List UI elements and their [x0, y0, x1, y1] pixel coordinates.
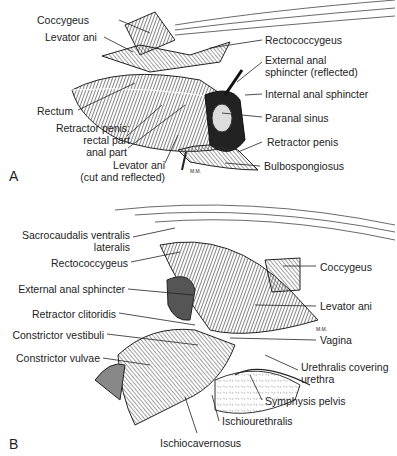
label-rectum: Rectum: [37, 105, 73, 117]
label-rectococcygeus-a: Rectococcygeus: [265, 34, 342, 46]
label-urethralis-covering: Urethralis covering: [301, 361, 389, 373]
label-paranal-sinus: Paranal sinus: [265, 112, 329, 124]
label-rectal-part: rectal part: [50, 134, 130, 146]
panel-letter-a: A: [9, 168, 18, 184]
label-ischiocavernosus: Ischiocavernosus: [160, 437, 241, 449]
label-anal-part: anal part: [50, 146, 127, 158]
label-levator-ani-cut: Levator ani: [70, 159, 165, 171]
label-coccygeus-b: Coccygeus: [320, 261, 372, 273]
panel-letter-b: B: [9, 436, 18, 452]
label-retractor-penis: Retractor penis: [267, 136, 338, 148]
label-urethra: urethra: [301, 373, 334, 385]
label-external-anal-sphincter-b: External anal sphincter: [5, 283, 125, 295]
label-symphysis-pelvis: Symphysis pelvis: [265, 395, 346, 407]
artist-signature-b: M.M.: [316, 323, 327, 335]
label-lateralis: lateralis: [10, 241, 130, 253]
label-retractor-penis-parts: Retractor penis:: [50, 122, 130, 134]
label-bulbospongiosus: Bulbospongiosus: [264, 160, 344, 172]
label-sacrocaudalis: Sacrocaudalis ventralis: [10, 229, 130, 241]
label-levator-ani-b: Levator ani: [320, 300, 372, 312]
label-coccygeus-a: Coccygeus: [37, 14, 89, 26]
artist-signature-a: M.M.: [190, 165, 201, 177]
label-cut-and-reflected: (cut and reflected): [60, 171, 165, 183]
label-retractor-clitoridis: Retractor clitoridis: [5, 308, 116, 320]
label-sphincter-reflected: sphincter (reflected): [265, 66, 358, 78]
label-vagina: Vagina: [320, 334, 352, 346]
panel-b-drawing: [95, 205, 395, 425]
label-constrictor-vulvae: Constrictor vulvae: [0, 352, 100, 364]
label-constrictor-vestibuli: Constrictor vestibuli: [0, 329, 104, 341]
label-internal-anal-sphincter: Internal anal sphincter: [265, 88, 368, 100]
label-rectococcygeus-b: Rectococcygeus: [10, 257, 128, 269]
label-external-anal-sphincter-a: External anal: [265, 54, 326, 66]
label-ischiourethralis: Ischiourethralis: [222, 415, 293, 427]
label-levator-ani-a: Levator ani: [45, 31, 97, 43]
